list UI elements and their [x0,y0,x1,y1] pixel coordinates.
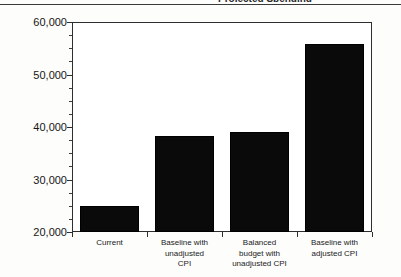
y-axis-tick-label: 30,000 [0,174,67,185]
x-axis-tick [222,232,223,237]
chart-figure: Projected Spending 20,00030,00040,00050,… [0,0,401,277]
x-axis-category-label: Balanced budget with unadjusted CPI [222,238,297,270]
bar [230,132,289,232]
bar [155,136,214,232]
x-axis-tick [72,232,73,237]
bar [80,206,139,232]
y-axis: 20,00030,00040,00050,00060,000 [0,0,67,277]
y-axis-tick-label: 20,000 [0,227,67,238]
x-axis-category-label: Baseline with adjusted CPI [297,238,372,259]
x-axis-category-label: Current [72,238,147,249]
x-axis-tick [297,232,298,237]
y-axis-tick-label: 60,000 [0,17,67,28]
chart-title: Projected Spending [150,0,380,2]
x-axis-category-label: Baseline with unadjusted CPI [147,238,222,270]
bar [305,44,364,232]
y-axis-tick-label: 50,000 [0,69,67,80]
y-axis-tick-label: 40,000 [0,122,67,133]
x-axis-tick [147,232,148,237]
x-axis-tick [372,232,373,237]
